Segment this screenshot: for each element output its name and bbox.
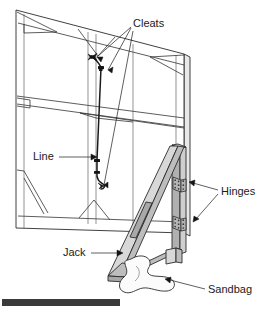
scale-bar [2, 299, 120, 306]
callout-hinges: Hinges [189, 180, 256, 222]
hinge-post-face [180, 147, 186, 254]
diagram-root: Cleats Line Hinges Jack Sandbag [0, 0, 265, 310]
sandbag-leader [170, 280, 205, 289]
line-label: Line [33, 150, 54, 162]
lower-cleat-2 [94, 171, 100, 174]
callout-sandbag: Sandbag [165, 277, 252, 295]
wall-brace-diagram: Cleats Line Hinges Jack Sandbag [0, 0, 265, 310]
lower-cleat [94, 159, 100, 162]
callout-jack: Jack [63, 246, 123, 258]
jack-label: Jack [63, 246, 86, 258]
jack-base-block-side [176, 248, 182, 263]
sandbag-label: Sandbag [208, 283, 252, 295]
upper-hinge-plate [173, 177, 181, 192]
hinges-leader-2 [196, 194, 218, 219]
wall-panel [16, 10, 190, 236]
lower-hinge-plate [173, 216, 181, 231]
cleats-label: Cleats [133, 17, 165, 29]
lower-hinge [173, 216, 186, 231]
jack-base-block [166, 248, 176, 264]
hinges-leader-1 [193, 183, 218, 190]
hinges-label: Hinges [221, 185, 256, 197]
upper-hinge [173, 177, 186, 192]
